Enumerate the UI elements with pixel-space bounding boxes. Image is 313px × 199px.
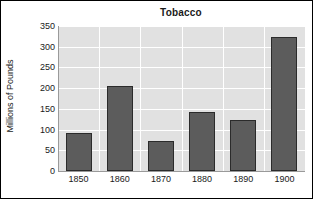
bar-slot	[264, 26, 305, 171]
x-tick-label: 1900	[264, 174, 305, 184]
y-axis-spine	[58, 26, 59, 171]
y-tick-label: 150	[21, 105, 55, 114]
bar-1880[interactable]	[189, 112, 215, 171]
bar-group	[58, 26, 305, 171]
y-tick-label: 350	[21, 22, 55, 31]
bar-slot	[140, 26, 181, 171]
x-axis-tick-labels: 1850 1860 1870 1880 1890 1900	[58, 174, 305, 184]
bar-slot	[223, 26, 264, 171]
x-axis-spine	[58, 171, 305, 172]
chart-title: Tobacco	[57, 7, 305, 18]
y-tick-label: 100	[21, 126, 55, 135]
bar-1870[interactable]	[148, 141, 174, 171]
bar-1850[interactable]	[66, 133, 92, 171]
x-tick-label: 1890	[223, 174, 264, 184]
y-tick-label: 300	[21, 43, 55, 52]
x-tick-label: 1870	[140, 174, 181, 184]
y-tick-label: 50	[21, 146, 55, 155]
bar-slot	[182, 26, 223, 171]
plot-area	[58, 26, 305, 171]
y-axis-title-container: Millions of Pounds	[3, 19, 17, 173]
y-axis-title: Millions of Pounds	[5, 59, 15, 132]
y-axis-tick-labels: 350 300 250 200 150 100 50 0	[19, 26, 55, 171]
y-tick-label: 250	[21, 63, 55, 72]
bar-slot	[58, 26, 99, 171]
y-tick-label: 200	[21, 84, 55, 93]
x-tick-label: 1860	[99, 174, 140, 184]
bar-1900[interactable]	[271, 37, 297, 171]
bar-1890[interactable]	[230, 120, 256, 171]
y-tick-label: 0	[21, 167, 55, 176]
chart-figure: Tobacco Millions of Pounds 350 300 250 2…	[0, 0, 313, 199]
bar-1860[interactable]	[107, 86, 133, 171]
bar-slot	[99, 26, 140, 171]
x-tick-label: 1880	[182, 174, 223, 184]
x-tick-label: 1850	[58, 174, 99, 184]
